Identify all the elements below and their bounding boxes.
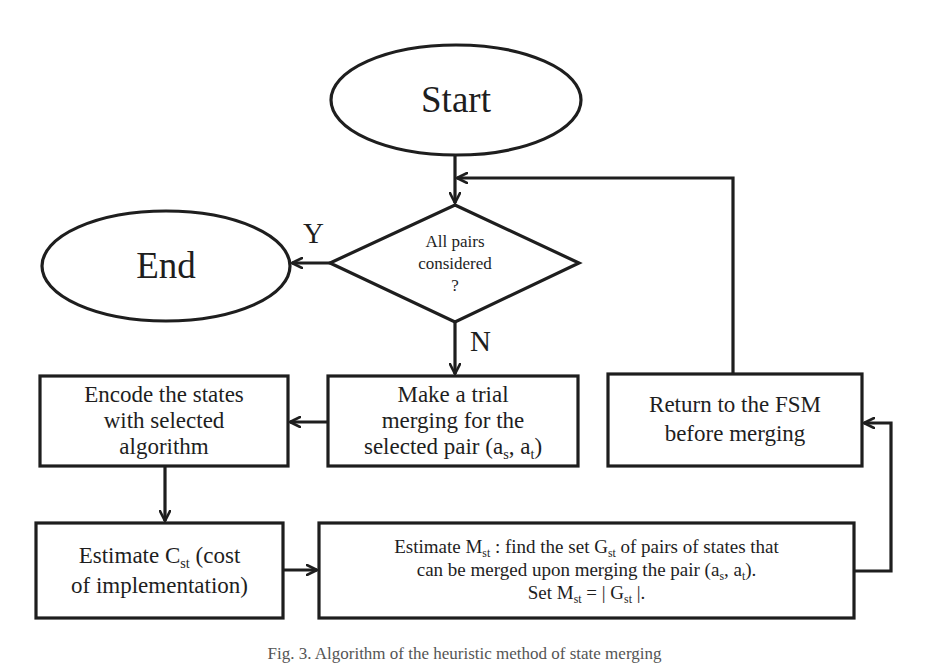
decision-node-label: All pairs considered ?: [380, 218, 530, 310]
estimate-m-node-label: Estimate Mst : find the set Gst of pairs…: [319, 523, 854, 618]
trial-line-1: Make a trial: [397, 382, 508, 408]
encode-node-label: Encode the states with selected algorith…: [40, 376, 288, 466]
encode-line-1: Encode the states: [84, 382, 244, 408]
start-label: Start: [421, 79, 491, 120]
no-edge-label: N: [470, 325, 491, 358]
trial-line-2: merging for the: [382, 408, 525, 434]
start-node-label: Start: [331, 45, 581, 155]
return-fsm-node-label: Return to the FSM before merging: [608, 374, 862, 466]
return-line-2: before merging: [665, 420, 806, 449]
estimate-c-node-label: Estimate Cst (cost of implementation): [36, 523, 283, 618]
decision-line-3: ?: [451, 275, 459, 297]
yes-edge-label: Y: [303, 217, 324, 250]
estimate-m-line-3: Set Mst = | Gst |.: [528, 582, 645, 605]
decision-line-1: All pairs: [425, 231, 484, 253]
estimate-m-line-2: can be merged upon merging the pair (as,…: [417, 559, 757, 582]
decision-line-2: considered: [418, 253, 492, 275]
estimate-m-line-1: Estimate Mst : find the set Gst of pairs…: [394, 536, 779, 559]
estimate-c-line-1: Estimate Cst (cost: [79, 541, 241, 571]
encode-line-3: algorithm: [119, 434, 208, 460]
encode-line-2: with selected: [104, 408, 225, 434]
estimate-c-line-2: of implementation): [71, 571, 248, 601]
end-label: End: [136, 245, 196, 286]
trial-line-3: selected pair (as, at): [364, 434, 542, 460]
trial-merge-node-label: Make a trial merging for the selected pa…: [328, 376, 578, 466]
figure-caption: Fig. 3. Algorithm of the heuristic metho…: [0, 644, 929, 664]
end-node-label: End: [42, 211, 290, 321]
return-line-1: Return to the FSM: [649, 391, 821, 420]
